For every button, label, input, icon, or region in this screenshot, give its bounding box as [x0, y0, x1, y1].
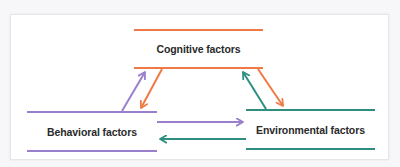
node-cognitive-factors: Cognitive factors [134, 29, 263, 69]
node-top-border [27, 111, 157, 113]
node-bottom-border [134, 67, 263, 69]
node-label: Cognitive factors [156, 43, 240, 55]
node-behavioral-factors: Behavioral factors [27, 111, 157, 152]
node-label: Behavioral factors [47, 126, 137, 138]
node-top-border [134, 29, 263, 31]
node-top-border [246, 109, 375, 111]
node-bottom-border [27, 150, 157, 152]
node-bottom-border [246, 148, 375, 150]
node-environmental-factors: Environmental factors [246, 109, 375, 150]
node-label: Environmental factors [256, 124, 365, 136]
